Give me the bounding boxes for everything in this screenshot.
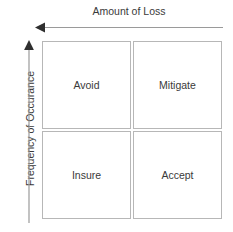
quadrant-avoid[interactable]: Avoid — [42, 41, 131, 129]
matrix-grid: Avoid Mitigate Insure Accept — [42, 41, 222, 219]
quadrant-accept-label: Accept — [161, 169, 193, 182]
quadrant-mitigate[interactable]: Mitigate — [133, 41, 222, 129]
quadrant-mitigate-label: Mitigate — [159, 79, 196, 92]
x-axis-label: Amount of Loss — [36, 5, 222, 18]
quadrant-insure-label: Insure — [72, 169, 101, 182]
quadrant-accept[interactable]: Accept — [133, 131, 222, 219]
arrow-left-icon — [33, 20, 224, 33]
risk-matrix-diagram: Amount of Loss Frequency of Occurance Av… — [0, 0, 233, 232]
quadrant-avoid-label: Avoid — [73, 79, 99, 92]
quadrant-insure[interactable]: Insure — [42, 131, 131, 219]
arrow-up-icon — [22, 38, 36, 224]
